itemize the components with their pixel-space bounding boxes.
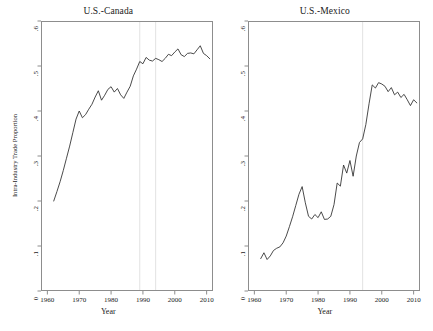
x-tick-label: 2000 xyxy=(162,296,188,304)
y-tick-label: .2 xyxy=(33,201,40,215)
axis-title-x: Year xyxy=(217,307,433,316)
x-tick-label: 1990 xyxy=(337,296,363,304)
x-tick-label: 1970 xyxy=(273,296,299,304)
y-tick-label: .1 xyxy=(33,246,40,260)
y-tick-label: .1 xyxy=(240,246,247,260)
y-tick-label: .4 xyxy=(240,111,247,125)
x-tick-label: 1990 xyxy=(130,296,156,304)
x-tick-label: 1980 xyxy=(305,296,331,304)
panel-title-us-canada: U.S.-Canada xyxy=(0,6,217,16)
x-tick-label: 2000 xyxy=(369,296,395,304)
y-tick-label: .4 xyxy=(33,111,40,125)
y-tick-label: .5 xyxy=(33,66,40,80)
axis-title-y: Intra-Industry Trade Proportion xyxy=(11,21,18,291)
x-tick-label: 2010 xyxy=(401,296,427,304)
x-tick-label: 1960 xyxy=(34,296,60,304)
y-tick-label: .2 xyxy=(240,201,247,215)
y-tick-label: .5 xyxy=(240,66,247,80)
y-tick-label: .6 xyxy=(33,21,40,35)
x-tick-label: 1960 xyxy=(241,296,267,304)
y-tick-label: .3 xyxy=(240,156,247,170)
axis-title-x: Year xyxy=(0,307,217,316)
x-tick-label: 1970 xyxy=(66,296,92,304)
y-tick-label: .3 xyxy=(33,156,40,170)
panel-title-us-mexico: U.S.-Mexico xyxy=(217,6,433,16)
figure-root: U.S.-Canada U.S.-Mexico 0.1.2.3.4.5.6196… xyxy=(0,0,433,331)
plot-frame-right xyxy=(248,21,420,291)
plot-frame-left xyxy=(41,21,213,291)
y-tick-label: .6 xyxy=(240,21,247,35)
x-tick-label: 2010 xyxy=(194,296,220,304)
x-tick-label: 1980 xyxy=(98,296,124,304)
